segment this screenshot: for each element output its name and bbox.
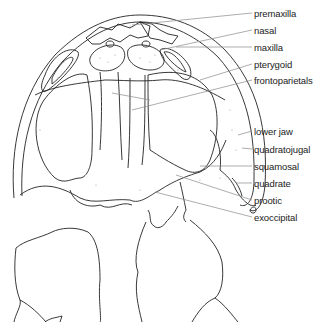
- leader-lines: [112, 13, 252, 217]
- label-frontoparietals: frontoparietals: [254, 75, 313, 86]
- label-pterygoid: pterygoid: [254, 59, 292, 70]
- label-exoccipital: exoccipital: [254, 212, 297, 223]
- label-quadratojugal: quadratojugal: [254, 144, 310, 155]
- label-quadrate: quadrate: [254, 178, 291, 189]
- skull-outline: [13, 15, 265, 322]
- label-lower-jaw: lower jaw: [254, 126, 293, 137]
- label-squamosal: squamosal: [254, 161, 299, 172]
- label-maxilla: maxilla: [254, 42, 283, 53]
- label-premaxilla: premaxilla: [254, 8, 296, 19]
- label-nasal: nasal: [254, 25, 276, 36]
- label-prootic: prootic: [254, 195, 282, 206]
